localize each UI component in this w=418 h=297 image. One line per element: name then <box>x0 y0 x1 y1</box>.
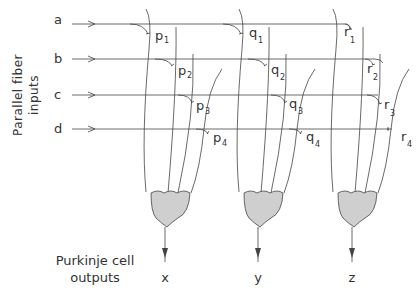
svg-text:3: 3 <box>298 107 303 116</box>
input-label-a: a <box>54 12 62 27</box>
purkinje-cell-z <box>331 9 409 262</box>
purkinje-diagram: Parallel fiber inputs a b c d <box>0 0 418 297</box>
purkinje-output-label-line2: outputs <box>70 270 120 285</box>
soma <box>338 191 377 227</box>
svg-text:4: 4 <box>222 139 227 148</box>
side-label-line2: inputs <box>27 75 41 115</box>
parallel-fiber-label: Parallel fiber inputs <box>11 54 41 136</box>
svg-text:4: 4 <box>315 140 320 149</box>
output-label-z: z <box>349 270 356 285</box>
input-label-c: c <box>54 87 61 102</box>
svg-text:1: 1 <box>164 36 169 45</box>
output-label-y: y <box>254 270 262 285</box>
purkinje-cell-y <box>223 9 315 262</box>
synapse-label: q <box>271 62 279 77</box>
synapse-label: p <box>196 98 204 113</box>
svg-text:2: 2 <box>280 73 285 82</box>
output-label-x: x <box>161 270 169 285</box>
svg-text:3: 3 <box>205 107 210 116</box>
input-label-d: d <box>54 121 62 136</box>
svg-text:1: 1 <box>350 36 355 45</box>
input-label-b: b <box>54 51 62 66</box>
synapse-label: p <box>178 63 186 78</box>
synapse-label: q <box>306 129 314 144</box>
svg-text:1: 1 <box>258 36 263 45</box>
purkinje-cell-x <box>130 9 222 262</box>
svg-text:2: 2 <box>187 71 192 80</box>
svg-text:4: 4 <box>407 140 412 149</box>
synapse-label: q <box>289 96 297 111</box>
arrow-down-icon <box>162 248 168 258</box>
soma <box>244 191 283 227</box>
svg-text:3: 3 <box>390 109 395 118</box>
svg-text:2: 2 <box>373 73 378 82</box>
arrow-down-icon <box>255 248 261 258</box>
synapse-label: q <box>249 25 257 40</box>
purkinje-output-label-line1: Purkinje cell <box>56 253 135 268</box>
synapse-label: p <box>155 28 163 43</box>
arrow-down-icon <box>349 248 355 258</box>
synapse-label: p <box>213 130 221 145</box>
soma <box>151 191 190 227</box>
side-label-line1: Parallel fiber <box>11 54 25 136</box>
